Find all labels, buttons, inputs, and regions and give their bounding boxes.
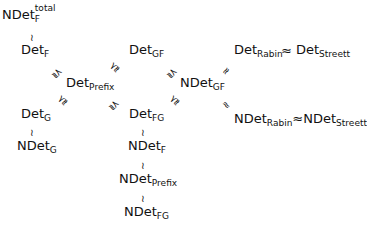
node-det-rabin: DetRabin xyxy=(234,43,283,59)
approx-symbol: ≈ xyxy=(292,111,303,126)
node-base: NDet xyxy=(2,7,35,22)
node-det-gf: DetGF xyxy=(129,43,164,59)
node-sub: GF xyxy=(152,49,164,59)
rel-detgf-prefix: ⪷ xyxy=(108,61,121,74)
node-sub: Streett xyxy=(336,118,367,128)
node-det-f: DetF xyxy=(21,43,49,59)
node-base: Det xyxy=(129,42,152,57)
rel-detfg-prefix: ⪷ xyxy=(108,98,121,111)
node-sub: G xyxy=(50,145,57,155)
rel-vertical-2: ≀ xyxy=(30,128,34,138)
node-det-g: DetG xyxy=(21,107,51,123)
node-ndet-f-total: NDettotalF xyxy=(2,8,57,21)
node-ndet-gf: NDetGF xyxy=(180,76,225,92)
node-base: NDet xyxy=(119,171,152,186)
node-base: NDet xyxy=(234,111,267,126)
node-ndet-g: NDetG xyxy=(17,139,57,155)
node-base: NDet xyxy=(303,111,336,126)
node-det-prefix: DetPrefix xyxy=(66,76,114,92)
node-base: Det xyxy=(296,42,319,57)
node-det-fg: DetFG xyxy=(129,107,164,123)
node-base: Det xyxy=(66,75,89,90)
node-ndet-prefix: NDetPrefix xyxy=(119,172,177,188)
rel-detgf-ndetgf: ⪷ xyxy=(166,66,179,79)
rel-ndetgf-ndetrabin: ≈ xyxy=(220,98,233,111)
node-sub: Streett xyxy=(319,49,350,59)
node-base: Det xyxy=(129,106,152,121)
node-sub: Rabin xyxy=(267,118,293,128)
node-sub: Prefix xyxy=(152,178,177,188)
rel-detg-prefix: ⪷ xyxy=(56,94,69,107)
rel-detf-prefix: ⪷ xyxy=(51,66,64,79)
node-base: NDet xyxy=(180,75,213,90)
node-sub: FG xyxy=(152,113,164,123)
node-base: NDet xyxy=(124,204,157,219)
node-base: NDet xyxy=(17,138,50,153)
node-sub: FG xyxy=(157,211,169,221)
rel-vertical-4: ≀ xyxy=(141,161,145,171)
rel-detfg-ndetgf: ⪷ xyxy=(168,94,181,107)
node-sub: F xyxy=(161,145,166,155)
node-ndet-fg: NDetFG xyxy=(124,205,169,221)
node-base: Det xyxy=(21,106,44,121)
rel-rabin-streett: ≈ xyxy=(281,44,292,57)
node-sub: GF xyxy=(213,82,225,92)
node-sub: F xyxy=(44,49,49,59)
node-sub: G xyxy=(44,113,51,123)
rel-vertical-5: ≀ xyxy=(141,194,145,204)
node-sup: total xyxy=(35,4,56,13)
node-ndet-rabin: NDetRabin≈NDetStreett xyxy=(234,112,367,128)
node-base: Det xyxy=(21,42,44,57)
node-ndet-f: NDetF xyxy=(128,139,166,155)
node-sub: F xyxy=(35,15,40,24)
node-sub: Rabin xyxy=(257,49,283,59)
node-sub: Prefix xyxy=(89,82,114,92)
node-det-streett: DetStreett xyxy=(296,43,350,59)
rel-vertical-3: ≀ xyxy=(141,128,145,138)
node-base: Det xyxy=(234,42,257,57)
node-base: NDet xyxy=(128,138,161,153)
